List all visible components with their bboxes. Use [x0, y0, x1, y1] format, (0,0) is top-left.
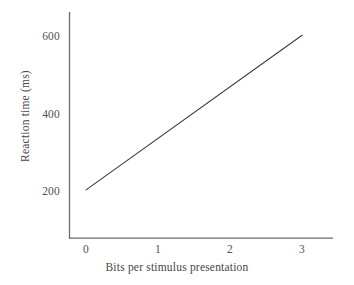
x-tick-label-1: 1 — [143, 243, 173, 255]
x-tick-label-2: 2 — [215, 243, 245, 255]
x-axis-title: Bits per stimulus presentation — [0, 261, 354, 273]
data-series-line — [86, 35, 302, 190]
x-tick-label-3: 3 — [287, 243, 317, 255]
x-tick-label-0: 0 — [71, 243, 101, 255]
chart-figure: 600 400 200 0 1 2 3 Bits per stimulus pr… — [0, 0, 354, 285]
y-axis-title: Reaction time (ms) — [19, 41, 31, 191]
